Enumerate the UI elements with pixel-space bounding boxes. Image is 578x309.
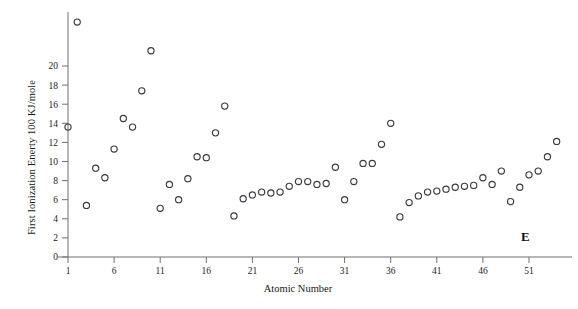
data-point xyxy=(176,197,182,203)
data-point xyxy=(240,196,246,202)
data-point xyxy=(277,189,283,195)
data-point xyxy=(415,193,421,199)
x-tick-label: 26 xyxy=(294,266,304,276)
x-tick-label: 6 xyxy=(112,266,117,276)
data-point xyxy=(517,184,523,190)
data-point xyxy=(212,130,218,136)
data-point xyxy=(443,186,449,192)
data-point xyxy=(461,183,467,189)
data-point xyxy=(434,188,440,194)
data-point xyxy=(203,155,209,161)
data-point xyxy=(129,124,135,130)
data-point xyxy=(388,120,394,126)
chart-canvas: 0246810121416182016111621263136414651 xyxy=(0,0,578,309)
data-point xyxy=(314,181,320,187)
x-tick-label: 41 xyxy=(432,266,442,276)
data-point xyxy=(83,202,89,208)
data-point xyxy=(305,178,311,184)
data-point xyxy=(249,192,255,198)
data-point xyxy=(148,48,154,54)
data-point xyxy=(185,176,191,182)
y-tick-label: 6 xyxy=(53,195,58,205)
y-tick-label: 18 xyxy=(49,81,59,91)
data-point xyxy=(535,168,541,174)
data-point xyxy=(139,88,145,94)
data-point xyxy=(554,138,560,144)
y-tick-label: 10 xyxy=(49,157,59,167)
data-points-group xyxy=(65,19,560,220)
data-point xyxy=(378,141,384,147)
data-point xyxy=(526,172,532,178)
data-point xyxy=(157,205,163,211)
data-point xyxy=(397,214,403,220)
data-point xyxy=(471,182,477,188)
tick-group xyxy=(62,66,529,263)
y-tick-label: 12 xyxy=(49,138,59,148)
x-tick-label: 16 xyxy=(202,266,212,276)
y-tick-label: 14 xyxy=(49,119,59,129)
y-tick-label: 16 xyxy=(49,100,59,110)
x-tick-label: 21 xyxy=(248,266,258,276)
axis-group xyxy=(58,12,572,257)
y-tick-label: 20 xyxy=(49,61,59,71)
data-point xyxy=(323,180,329,186)
corner-annotation-label: E xyxy=(521,229,530,245)
data-point xyxy=(360,160,366,166)
y-tick-label: 2 xyxy=(53,233,58,243)
data-point xyxy=(93,165,99,171)
data-point xyxy=(194,154,200,160)
y-axis-title: First Ionization Enerty 100 KJ/mole xyxy=(26,53,37,263)
data-point xyxy=(166,181,172,187)
data-point xyxy=(351,178,357,184)
data-point xyxy=(480,175,486,181)
data-point xyxy=(222,103,228,109)
data-point xyxy=(406,199,412,205)
data-point xyxy=(507,199,513,205)
data-point xyxy=(544,154,550,160)
scatter-plot: 0246810121416182016111621263136414651 Fi… xyxy=(0,0,578,309)
x-tick-label: 51 xyxy=(524,266,534,276)
tick-label-group: 0246810121416182016111621263136414651 xyxy=(49,61,535,276)
data-point xyxy=(268,190,274,196)
x-tick-label: 36 xyxy=(386,266,396,276)
y-tick-label: 4 xyxy=(53,214,58,224)
x-tick-label: 46 xyxy=(478,266,488,276)
x-tick-label: 31 xyxy=(340,266,350,276)
data-point xyxy=(424,189,430,195)
data-point xyxy=(120,115,126,121)
x-tick-label: 11 xyxy=(156,266,165,276)
data-point xyxy=(74,19,80,25)
data-point xyxy=(231,213,237,219)
data-point xyxy=(295,178,301,184)
data-point xyxy=(286,183,292,189)
data-point xyxy=(259,189,265,195)
y-tick-label: 8 xyxy=(53,176,58,186)
y-tick-label: 0 xyxy=(53,252,58,262)
data-point xyxy=(369,160,375,166)
data-point xyxy=(342,197,348,203)
x-tick-label: 1 xyxy=(66,266,71,276)
x-axis-title: Atomic Number xyxy=(68,283,528,294)
data-point xyxy=(489,181,495,187)
data-point xyxy=(498,168,504,174)
data-point xyxy=(111,146,117,152)
data-point xyxy=(332,164,338,170)
data-point xyxy=(452,184,458,190)
chart-page: 0246810121416182016111621263136414651 Fi… xyxy=(0,0,578,309)
data-point xyxy=(102,175,108,181)
